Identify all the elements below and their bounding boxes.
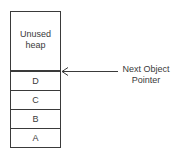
- object-label: B: [32, 114, 38, 125]
- heap-object-a: A: [11, 129, 60, 147]
- object-label: A: [32, 133, 38, 144]
- heap-object-c: C: [11, 91, 60, 110]
- heap-stack: Unused heap D C B A: [10, 11, 61, 148]
- heap-object-d: D: [11, 72, 60, 91]
- pointer-label-line1: Next Object: [118, 64, 174, 75]
- arrow-icon: [62, 68, 118, 76]
- heap-object-b: B: [11, 110, 60, 129]
- unused-heap-region: Unused heap: [11, 12, 60, 72]
- object-label: D: [32, 76, 39, 87]
- object-label: C: [32, 95, 39, 106]
- next-object-pointer-label: Next Object Pointer: [118, 64, 174, 86]
- pointer-label-line2: Pointer: [118, 75, 174, 86]
- unused-heap-label: Unused heap: [11, 29, 60, 51]
